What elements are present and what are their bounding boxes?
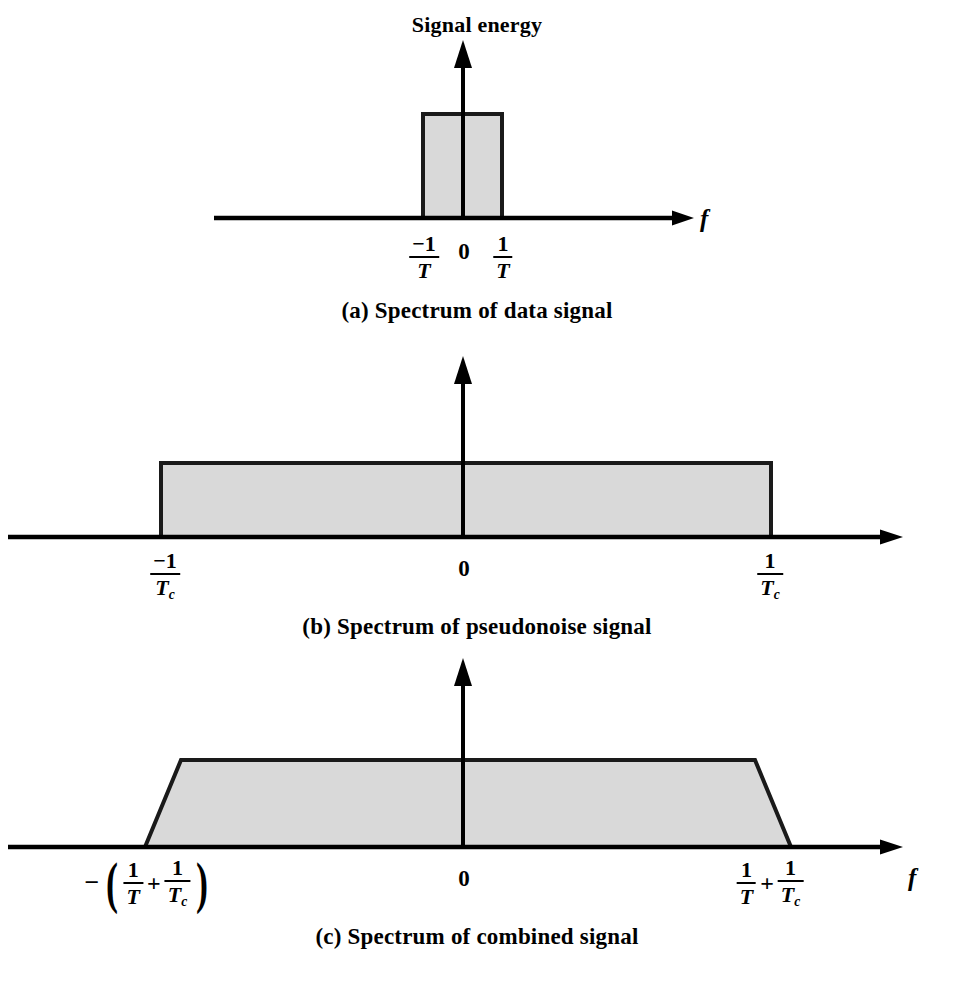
fraction-denominator: Tc — [757, 573, 783, 603]
panel-a-plot — [0, 0, 954, 300]
fraction-one-over-Tc: 1 Tc — [757, 549, 783, 603]
panel-a-x-axis-label: f — [700, 206, 708, 231]
open-paren: ( — [106, 860, 118, 905]
fraction-one-over-T: 1 T — [493, 232, 512, 282]
panel-b-y-axis-arrowhead — [454, 356, 472, 384]
minus-sign: − — [84, 870, 100, 896]
fraction-denominator: Tc — [778, 880, 804, 910]
fraction-denominator: T — [737, 882, 756, 908]
fraction-one-over-Tc: 1 Tc — [165, 856, 191, 910]
subscript-c: c — [169, 587, 175, 602]
fraction-denominator: Tc — [150, 573, 180, 603]
subscript-c: c — [774, 587, 780, 602]
panel-b-tick-left: −1 Tc — [150, 549, 180, 603]
panel-a: f −1 T 0 1 T (a) Spectrum of data signal — [0, 0, 954, 300]
fraction-neg-one-over-T: −1 T — [409, 232, 439, 282]
panel-a-y-axis-arrowhead — [454, 40, 472, 68]
expression-neg-sum: − ( 1 T + 1 Tc ) — [84, 856, 211, 910]
plus-sign: + — [758, 871, 776, 895]
panel-c-tick-left: − ( 1 T + 1 Tc ) — [84, 856, 211, 910]
signal-spectra-figure: Signal energy f −1 T 0 1 T — [0, 0, 954, 981]
panel-c: f − ( 1 T + 1 Tc ) 0 — [0, 650, 954, 981]
panel-b: f −1 Tc 0 1 Tc (b) Spectrum of pseudonoi… — [0, 340, 954, 640]
fraction-denominator: T — [493, 256, 512, 282]
subscript-c: c — [794, 894, 800, 909]
panel-c-tick-right: 1 T + 1 Tc — [737, 856, 804, 910]
subscript-c: c — [181, 894, 187, 909]
panel-b-tick-zero: 0 — [458, 557, 470, 580]
panel-b-x-axis-arrowhead — [880, 530, 903, 545]
panel-a-caption: (a) Spectrum of data signal — [0, 299, 954, 322]
fraction-denominator: T — [409, 256, 439, 282]
panel-b-caption: (b) Spectrum of pseudonoise signal — [0, 615, 954, 638]
panel-c-tick-zero: 0 — [458, 867, 470, 890]
expression-sum: 1 T + 1 Tc — [737, 856, 804, 910]
fraction-denominator: T — [124, 882, 143, 908]
panel-a-tick-right: 1 T — [493, 232, 512, 282]
panel-c-x-axis-arrowhead — [880, 840, 903, 855]
fraction-one-over-T: 1 T — [124, 858, 143, 908]
panel-a-x-axis-arrowhead — [672, 211, 694, 226]
panel-b-tick-right: 1 Tc — [757, 549, 783, 603]
panel-b-plot — [0, 340, 954, 610]
fraction-neg-one-over-Tc: −1 Tc — [150, 549, 180, 603]
panel-c-data-region — [145, 760, 791, 847]
panel-c-y-axis-arrowhead — [454, 658, 472, 686]
panel-a-tick-zero: 0 — [458, 240, 470, 263]
plus-sign: + — [145, 871, 163, 895]
close-paren: ) — [196, 860, 208, 905]
fraction-one-over-T: 1 T — [737, 858, 756, 908]
fraction-denominator: Tc — [165, 880, 191, 910]
fraction-one-over-Tc: 1 Tc — [778, 856, 804, 910]
panel-c-caption: (c) Spectrum of combined signal — [0, 925, 954, 948]
panel-a-tick-left: −1 T — [409, 232, 439, 282]
panel-b-data-region — [161, 463, 771, 537]
